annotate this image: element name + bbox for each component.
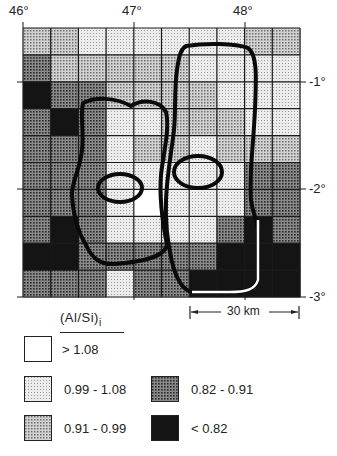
legend-label-091-099: 0.91 - 0.99 [64,421,126,436]
legend-label-lt-082: < 0.82 [191,421,228,436]
grid-cell [23,28,51,55]
legend-title-text: (Al/Si) [60,310,99,325]
grid-cell [134,136,162,163]
grid-cell [78,163,106,190]
scale-bar-label: 30 km [225,304,262,318]
grid-cell [134,216,162,243]
grid-cell [134,55,162,82]
grid-cell [217,55,245,82]
grid-cell [51,243,79,270]
grid-cell [217,109,245,136]
grid-cell [23,216,51,243]
grid-cell [217,82,245,109]
grid-cell [162,28,190,55]
grid-cell [106,109,134,136]
legend-title-subscript: i [99,317,102,328]
grid-cell [106,55,134,82]
grid-cell [272,216,300,243]
grid-cell [134,109,162,136]
legend-label-099-108: 0.99 - 1.08 [64,382,126,397]
grid-cell [272,189,300,216]
grid-cell [134,270,162,297]
grid-cell [272,243,300,270]
scale-bar: 30 km [189,305,300,319]
grid-cell [51,82,79,109]
grid-cell [51,109,79,136]
grid-cell [217,28,245,55]
grid-cell [23,136,51,163]
legend-label-gt-108: > 1.08 [62,342,99,357]
lat-label-2: -2° [309,181,326,196]
grid-cell [23,55,51,82]
legend-swatch-gt-108 [24,336,52,362]
grid-cell [23,243,51,270]
grid-cell [134,163,162,190]
grid-cell [189,82,217,109]
grid-cell [272,55,300,82]
grid-cell [106,28,134,55]
grid-cell [272,82,300,109]
grid-cell [245,55,273,82]
grid-cell [245,109,273,136]
grid-cell [106,216,134,243]
ratio-map [0,0,337,300]
grid-cell [189,28,217,55]
grid-cell [23,109,51,136]
grid-cell [217,136,245,163]
legend-title: (Al/Si)i [60,310,102,328]
grid-cell [51,55,79,82]
grid-cell [245,82,273,109]
legend-label-082-091: 0.82 - 0.91 [191,382,253,397]
grid-cell [217,243,245,270]
grid-cell [78,28,106,55]
grid-cell [23,189,51,216]
grid-cell [272,109,300,136]
grid-cell [23,82,51,109]
grid-cell [189,216,217,243]
grid-cell [189,109,217,136]
grid-cell [189,243,217,270]
grid-cell [106,243,134,270]
grid-cell [245,136,273,163]
legend-swatch-082-091 [151,376,179,402]
grid-cell [272,136,300,163]
grid-cell [189,55,217,82]
grid-cell [189,189,217,216]
grid-cell [51,28,79,55]
grid-cell [106,136,134,163]
lon-label-46: 46° [9,3,29,18]
lat-label-3: -3° [309,289,326,304]
lat-label-1: -1° [309,74,326,89]
grid-cell [51,270,79,297]
grid-cell [23,163,51,190]
legend-divider [60,332,124,333]
legend-swatch-099-108 [24,376,52,402]
lon-label-47: 47° [122,3,142,18]
grid-cell [51,136,79,163]
grid-cell [272,28,300,55]
grid-cell [217,189,245,216]
grid-cell [272,270,300,297]
grid-cell [217,216,245,243]
grid-cell [78,270,106,297]
grid-cell [78,189,106,216]
grid-cell [106,270,134,297]
legend-swatch-091-099 [24,415,52,441]
grid-cell [23,270,51,297]
legend-swatch-lt-082 [151,415,179,441]
grid-cell [272,163,300,190]
lon-label-48: 48° [233,3,253,18]
grid-cell [78,55,106,82]
grid-cell [134,28,162,55]
